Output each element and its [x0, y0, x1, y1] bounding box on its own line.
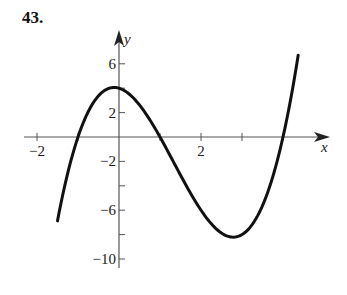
- y-tick-label: −6: [100, 202, 116, 218]
- y-tick-label: 2: [109, 105, 117, 121]
- x-axis-label: x: [320, 139, 328, 155]
- y-tick-label: 6: [109, 56, 117, 72]
- axes: xy: [24, 30, 330, 268]
- function-graph: xy −2262−2−6−10: [0, 0, 347, 295]
- x-tick-label: 2: [197, 143, 205, 159]
- cubic-curve: [58, 55, 299, 237]
- x-tick-label: −2: [29, 143, 45, 159]
- y-tick-label: −2: [100, 153, 116, 169]
- y-tick-label: −10: [93, 251, 116, 267]
- y-axis-label: y: [122, 31, 131, 47]
